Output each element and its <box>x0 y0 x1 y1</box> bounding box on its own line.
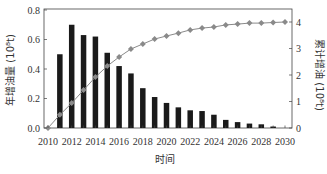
y-axis-right-title: 累计增油 (10⁸t) <box>314 39 326 111</box>
bar <box>187 110 193 128</box>
bar <box>176 107 182 128</box>
x-tick-label: 2026 <box>228 136 248 147</box>
x-tick-label: 2012 <box>62 136 82 147</box>
bar <box>152 97 158 128</box>
diamond-marker <box>175 30 181 36</box>
y-right-tick-label: 2 <box>296 70 301 81</box>
y-left-tick-label: 0.6 <box>28 34 41 45</box>
y-right-tick-label: 0 <box>296 123 301 134</box>
diamond-marker <box>270 20 276 26</box>
diamond-marker <box>258 20 264 26</box>
y-right-tick-label: 1 <box>296 96 301 107</box>
y-axis-left-title: 年增油量 (10⁸t) <box>4 34 16 106</box>
x-tick-label: 2018 <box>133 136 153 147</box>
diamond-marker <box>152 36 158 42</box>
x-tick-label: 2010 <box>38 136 58 147</box>
diamond-marker <box>199 25 205 31</box>
y-left-tick-label: 0.4 <box>28 64 41 75</box>
chart: 2010201220142016201820202022202420262028… <box>0 0 327 174</box>
bar-series-annual-oil-increase <box>57 25 276 128</box>
y-left-tick-label: 0.2 <box>28 93 41 104</box>
x-tick-label: 2022 <box>180 136 200 147</box>
x-axis: 2010201220142016201820202022202420262028… <box>38 126 295 148</box>
bar <box>199 111 205 128</box>
x-tick-label: 2016 <box>109 136 129 147</box>
bar <box>116 66 122 128</box>
diamond-marker <box>223 22 229 28</box>
y-axis-right: 01234 <box>289 17 301 134</box>
diamond-marker <box>140 41 146 47</box>
diamond-marker <box>128 46 134 52</box>
diamond-marker <box>211 24 217 30</box>
x-tick-label: 2020 <box>157 136 177 147</box>
x-tick-label: 2030 <box>275 136 295 147</box>
bar <box>93 37 99 128</box>
x-tick-label: 2024 <box>204 136 224 147</box>
bar <box>69 25 75 128</box>
x-tick-label: 2014 <box>85 136 105 147</box>
x-tick-label: 2028 <box>251 136 271 147</box>
bar <box>140 88 146 128</box>
x-axis-title: 时间 <box>155 153 175 165</box>
diamond-marker <box>235 21 241 27</box>
diamond-marker <box>187 27 193 33</box>
y-right-tick-label: 3 <box>296 43 301 54</box>
y-right-tick-label: 4 <box>296 17 301 28</box>
bar <box>81 35 87 128</box>
y-left-tick-label: 0.0 <box>28 123 41 134</box>
diamond-marker <box>282 19 288 25</box>
diamond-marker <box>164 33 170 39</box>
diamond-marker <box>246 20 252 26</box>
bar <box>164 103 170 128</box>
y-left-tick-label: 0.8 <box>28 5 41 16</box>
bar <box>128 73 134 128</box>
